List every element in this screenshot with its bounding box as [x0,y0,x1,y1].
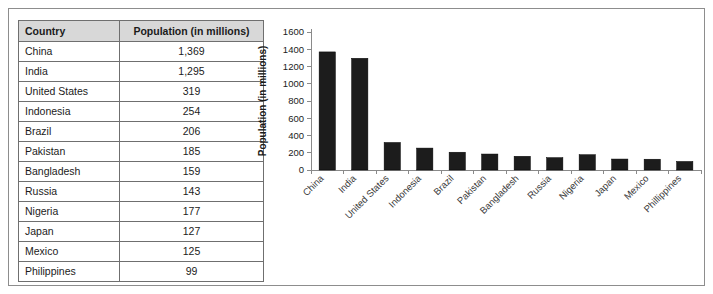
bar-united-states [384,142,400,170]
table-row: Mexico125 [19,242,264,262]
cell-country: Indonesia [19,102,120,122]
cell-population: 319 [120,82,264,102]
table-row: Brazil206 [19,122,264,142]
y-axis-tick-label: 1000 [283,78,304,89]
cell-population: 125 [120,242,264,262]
bar-indonesia [417,148,433,170]
table-row: China1,369 [19,42,264,62]
table-row: Russia143 [19,182,264,202]
cell-country: United States [19,82,120,102]
bar-russia [547,158,563,170]
x-axis-category-label: Japan [592,173,618,199]
x-axis-category-label: India [336,172,359,195]
bar-bangladesh [514,156,530,170]
y-axis-tick-label: 0 [299,164,304,175]
cell-country: Philippines [19,262,120,282]
bar-china [319,52,335,170]
bar-phillippines [677,161,693,170]
cell-population: 1,295 [120,62,264,82]
y-axis-tick-label: 1200 [283,61,304,72]
bar-nigeria [579,155,595,170]
cell-country: India [19,62,120,82]
cell-population: 127 [120,222,264,242]
y-axis-tick-label: 1600 [283,26,304,37]
table-row: India1,295 [19,62,264,82]
bar-india [352,58,368,170]
population-data-table: Country Population (in millions) China1,… [18,20,264,282]
table-row: Pakistan185 [19,142,264,162]
table-header: Country Population (in millions) [19,21,264,42]
x-axis-category-label: Nigeria [557,172,587,202]
cell-population: 143 [120,182,264,202]
column-header-country: Country [19,21,120,42]
bar-japan [612,159,628,170]
bar-pakistan [482,154,498,170]
cell-country: Brazil [19,122,120,142]
x-axis-category-label: China [300,172,326,198]
x-axis-category-label: Brazil [431,173,456,198]
y-axis-tick-label: 600 [288,113,304,124]
table-row: Indonesia254 [19,102,264,122]
x-axis-category-label: Indonesia [386,172,423,209]
bar-brazil [449,152,465,170]
table-row: United States319 [19,82,264,102]
population-bar-chart: 02004006008001000120014001600Population … [253,15,708,287]
cell-country: China [19,42,120,62]
y-axis-tick-label: 800 [288,95,304,106]
cell-country: Japan [19,222,120,242]
y-axis-tick-label: 200 [288,147,304,158]
table-row: Japan127 [19,222,264,242]
cell-country: Nigeria [19,202,120,222]
x-axis-category-label: Mexico [622,173,651,202]
cell-country: Russia [19,182,120,202]
bar-mexico [644,159,660,170]
cell-population: 185 [120,142,264,162]
table-row: Nigeria177 [19,202,264,222]
chart-svg: 02004006008001000120014001600Population … [253,15,708,287]
y-axis-tick-label: 400 [288,130,304,141]
y-axis-tick-label: 1400 [283,44,304,55]
column-header-population: Population (in millions) [120,21,264,42]
cell-country: Mexico [19,242,120,262]
x-axis-category-label: Russia [525,172,554,201]
table-body: China1,369India1,295United States319Indo… [19,42,264,282]
figure-frame: Country Population (in millions) China1,… [8,8,705,286]
cell-population: 159 [120,162,264,182]
cell-population: 1,369 [120,42,264,62]
cell-country: Bangladesh [19,162,120,182]
cell-population: 254 [120,102,264,122]
table-row: Bangladesh159 [19,162,264,182]
cell-country: Pakistan [19,142,120,162]
cell-population: 177 [120,202,264,222]
table-header-row: Country Population (in millions) [19,21,264,42]
cell-population: 99 [120,262,264,282]
y-axis-title: Population (in millions) [257,46,268,157]
table-row: Philippines99 [19,262,264,282]
cell-population: 206 [120,122,264,142]
